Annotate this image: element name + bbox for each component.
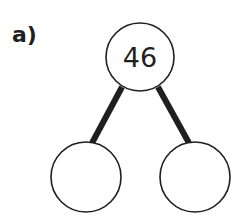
part-circle-left[interactable] bbox=[51, 142, 121, 212]
part-circle-right[interactable] bbox=[160, 142, 230, 212]
connector-right bbox=[158, 87, 189, 143]
whole-value: 46 bbox=[123, 42, 157, 73]
connector-left bbox=[92, 87, 122, 143]
part-whole-diagram: 46 bbox=[0, 0, 241, 220]
